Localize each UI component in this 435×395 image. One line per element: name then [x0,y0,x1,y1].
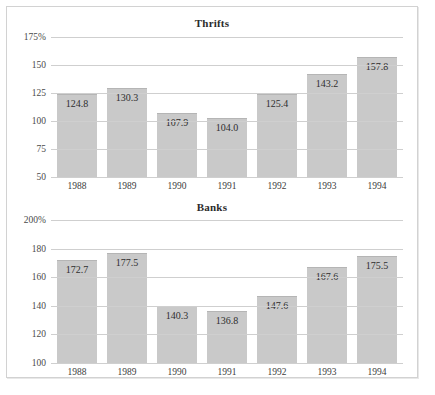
x-tick-label-banks-1993: 1993 [307,367,347,377]
x-tick-label-thrifts-1992: 1992 [257,181,297,191]
gridline-thrifts-50: 50 [51,177,403,178]
x-tick-label-thrifts-1993: 1993 [307,181,347,191]
bar-column: 124.8 [57,38,97,178]
bar-group-thrifts: 124.8130.3107.9104.0125.4143.2157.8 [51,38,403,178]
plot-area-thrifts: 124.8130.3107.9104.0125.4143.2157.8 5075… [51,38,403,178]
y-tick-label-banks-140: 140 [32,301,46,311]
y-tick-label-thrifts-150: 150 [32,60,46,70]
y-tick-label-thrifts-125: 125 [32,88,46,98]
bar-thrifts-1994[interactable]: 157.8 [357,57,397,178]
y-tick-label-banks-100: 100 [32,358,46,368]
chart-title-banks: Banks [7,201,417,213]
bar-value-label: 124.8 [57,98,97,109]
bar-thrifts-1989[interactable]: 130.3 [107,88,147,178]
bar-value-label: 107.9 [157,117,197,128]
gridline-thrifts-100: 100 [51,121,403,122]
bar-column: 175.5 [357,221,397,364]
bar-column: 147.6 [257,221,297,364]
bar-group-banks: 172.7177.5140.3136.8147.6167.6175.5 [51,221,403,364]
x-tick-label-thrifts-1994: 1994 [357,181,397,191]
bar-column: 107.9 [157,38,197,178]
bar-column: 136.8 [207,221,247,364]
bar-value-label: 104.0 [207,122,247,133]
bar-value-label: 177.5 [107,257,147,268]
bar-column: 125.4 [257,38,297,178]
bar-column: 104.0 [207,38,247,178]
bar-column: 172.7 [57,221,97,364]
y-tick-label-banks-200: 200% [24,215,46,225]
bar-thrifts-1991[interactable]: 104.0 [207,118,247,178]
bar-banks-1993[interactable]: 167.6 [307,267,347,364]
gridline-thrifts-175: 175% [51,37,403,38]
bar-value-label: 143.2 [307,78,347,89]
gridline-thrifts-150: 150 [51,65,403,66]
bar-column: 130.3 [107,38,147,178]
x-tick-label-thrifts-1988: 1988 [57,181,97,191]
bar-column: 143.2 [307,38,347,178]
gridline-banks-180: 180 [51,249,403,250]
y-tick-label-banks-180: 180 [32,244,46,254]
y-tick-label-banks-120: 120 [32,329,46,339]
bar-banks-1991[interactable]: 136.8 [207,311,247,364]
bar-value-label: 157.8 [357,61,397,72]
y-tick-label-thrifts-175: 175% [24,32,46,42]
bar-thrifts-1993[interactable]: 143.2 [307,74,347,178]
y-tick-label-thrifts-50: 50 [37,172,47,182]
bar-banks-1994[interactable]: 175.5 [357,256,397,364]
x-tick-label-banks-1990: 1990 [157,367,197,377]
bar-banks-1988[interactable]: 172.7 [57,260,97,364]
gridline-thrifts-125: 125 [51,93,403,94]
chart-panel-banks: Banks 172.7177.5140.3136.8147.6167.6175.… [7,195,417,377]
bar-banks-1989[interactable]: 177.5 [107,253,147,364]
bar-value-label: 125.4 [257,98,297,109]
bar-value-label: 140.3 [157,310,197,321]
bar-column: 140.3 [157,221,197,364]
y-tick-label-banks-160: 160 [32,272,46,282]
bar-thrifts-1992[interactable]: 125.4 [257,94,297,178]
gridline-thrifts-75: 75 [51,149,403,150]
bar-value-label: 172.7 [57,264,97,275]
x-tick-label-banks-1988: 1988 [57,367,97,377]
x-tick-label-banks-1989: 1989 [107,367,147,377]
bar-thrifts-1990[interactable]: 107.9 [157,113,197,178]
x-tick-label-thrifts-1991: 1991 [207,181,247,191]
gridline-banks-200: 200% [51,220,403,221]
x-tick-label-thrifts-1990: 1990 [157,181,197,191]
x-tick-label-thrifts-1989: 1989 [107,181,147,191]
figure-frame: Thrifts 124.8130.3107.9104.0125.4143.215… [6,6,418,378]
bar-value-label: 136.8 [207,315,247,326]
x-tick-label-banks-1994: 1994 [357,367,397,377]
gridline-banks-160: 160 [51,277,403,278]
plot-area-banks: 172.7177.5140.3136.8147.6167.6175.5 1001… [51,221,403,364]
x-tick-label-banks-1991: 1991 [207,367,247,377]
gridline-banks-140: 140 [51,306,403,307]
x-axis-labels-thrifts: 1988198919901991199219931994 [51,181,403,191]
chart-panel-thrifts: Thrifts 124.8130.3107.9104.0125.4143.215… [7,9,417,195]
x-axis-labels-banks: 1988198919901991199219931994 [51,367,403,377]
bar-column: 157.8 [357,38,397,178]
x-tick-label-banks-1992: 1992 [257,367,297,377]
chart-title-thrifts: Thrifts [7,17,417,29]
bar-value-label: 175.5 [357,260,397,271]
y-tick-label-thrifts-100: 100 [32,116,46,126]
y-tick-label-thrifts-75: 75 [37,144,47,154]
gridline-banks-120: 120 [51,334,403,335]
bar-column: 177.5 [107,221,147,364]
bar-column: 167.6 [307,221,347,364]
bar-thrifts-1988[interactable]: 124.8 [57,94,97,178]
gridline-banks-100: 100 [51,363,403,364]
